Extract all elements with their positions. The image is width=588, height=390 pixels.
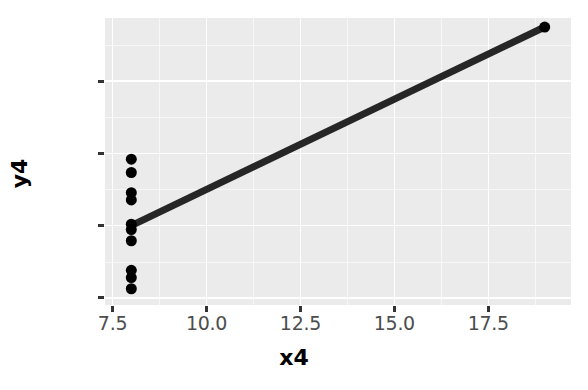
data-point xyxy=(126,224,137,235)
data-point xyxy=(126,272,137,283)
plot-panel xyxy=(105,18,571,305)
data-point xyxy=(126,235,137,246)
data-point xyxy=(126,154,137,165)
y-tick-mark xyxy=(98,224,104,227)
data-point xyxy=(539,22,550,33)
data-point xyxy=(126,283,137,294)
y-axis-title: y4 xyxy=(7,134,32,214)
x-tick-label: 15.0 xyxy=(374,312,415,334)
x-tick-label: 17.5 xyxy=(468,312,509,334)
x-axis-title: x4 xyxy=(0,345,588,370)
data-point xyxy=(126,187,137,198)
data-layer xyxy=(105,18,571,305)
x-tick-label: 10.0 xyxy=(186,312,227,334)
x-tick-label: 7.5 xyxy=(98,312,127,334)
y-tick-mark xyxy=(98,152,104,155)
x-tick-label: 12.5 xyxy=(280,312,321,334)
chart-figure: 7.510.012.515.017.5 57911 x4 y4 xyxy=(0,0,588,390)
regression-line xyxy=(131,27,544,226)
y-tick-mark xyxy=(98,80,104,83)
data-point xyxy=(126,167,137,178)
y-tick-mark xyxy=(98,296,104,299)
